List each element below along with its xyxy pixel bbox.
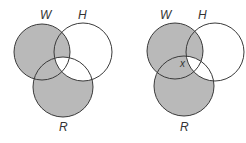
right-label-x: x <box>179 58 186 69</box>
left-label-w: W <box>40 8 53 22</box>
right-venn-diagram: W H R x <box>123 0 246 143</box>
venn-figure: W H R W H R x <box>0 0 246 143</box>
right-label-w: W <box>160 8 173 22</box>
left-label-h: H <box>78 8 87 22</box>
left-venn-diagram: W H R <box>0 0 123 143</box>
left-label-r: R <box>59 120 68 134</box>
right-label-r: R <box>180 120 189 134</box>
right-label-h: H <box>198 8 207 22</box>
